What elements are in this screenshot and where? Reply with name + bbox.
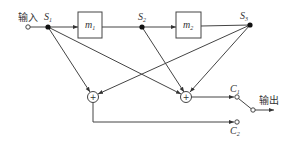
node-s1-label: S1 [44, 11, 52, 23]
signal-flow-diagram: 输入 m1 m2 S1 S2 S3 + + C1 C2 输出 [0, 0, 298, 144]
wire-left-adder-c2 [93, 103, 234, 123]
switch-arm [239, 99, 252, 110]
input-label: 输入 [18, 11, 38, 23]
output-label: 输出 [259, 94, 279, 106]
wire-s3-left-adder [98, 25, 250, 94]
terminal-c2-label: C2 [230, 125, 240, 137]
wire-s1-right-adder [48, 27, 181, 94]
node-s2-label: S2 [138, 11, 146, 23]
input-terminal [26, 25, 30, 29]
node-s3 [247, 22, 252, 27]
terminal-c1-label: C1 [230, 83, 240, 95]
node-s3-label: S3 [240, 10, 248, 22]
adder-left-symbol: + [90, 93, 97, 102]
node-s1 [45, 24, 50, 29]
node-s2 [139, 24, 144, 29]
switch-pivot [251, 108, 255, 112]
adder-right-symbol: + [183, 93, 190, 102]
terminal-c2 [235, 120, 239, 124]
wire-m2-s3 [201, 25, 250, 26]
